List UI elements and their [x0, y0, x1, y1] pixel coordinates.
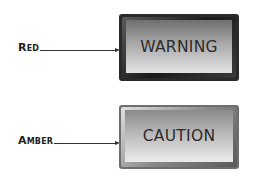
caution-label: CAUTION	[143, 127, 216, 145]
warning-face: WARNING	[126, 20, 232, 73]
caution-indicator-button[interactable]: CAUTION	[119, 105, 239, 169]
warning-label: WARNING	[140, 38, 218, 56]
caution-face: CAUTION	[125, 110, 233, 162]
red-leader-line	[40, 50, 116, 51]
amber-callout-label: Amber	[18, 134, 53, 147]
red-callout-label: Red	[18, 41, 39, 54]
warning-indicator-button[interactable]: WARNING	[119, 14, 239, 81]
amber-leader-line	[54, 143, 116, 144]
